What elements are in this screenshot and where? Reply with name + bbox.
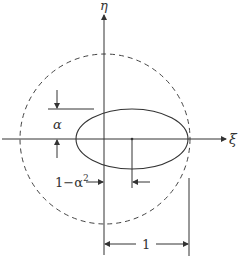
alpha-label: α (53, 117, 62, 132)
offset-label-exponent: 2 (83, 173, 89, 183)
xi-label: ξ (229, 131, 238, 147)
ellipse-diagram: ξ η α 1−α2 1 (0, 0, 238, 257)
offset-label: 1−α2 (55, 173, 89, 190)
unit-label: 1 (142, 237, 150, 252)
eta-label: η (100, 0, 108, 13)
offset-label-base: 1−α (55, 175, 83, 190)
